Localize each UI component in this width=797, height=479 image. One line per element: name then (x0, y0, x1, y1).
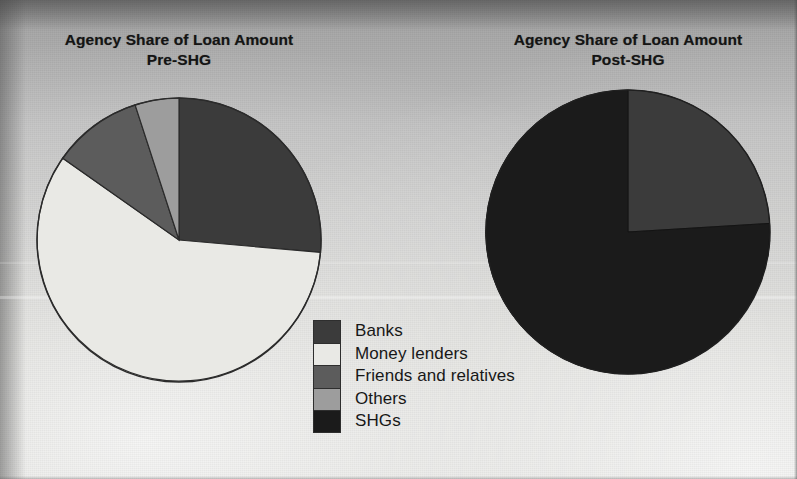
legend-item-others[interactable]: Others (313, 388, 515, 411)
top-shadow-band (0, 0, 797, 30)
left-shadow-band (0, 0, 26, 479)
chart-title-pre-shg: Agency Share of Loan Amount Pre-SHG (39, 30, 319, 70)
chart-title-post-shg-line1: Agency Share of Loan Amount (514, 31, 743, 48)
chart-title-post-shg: Agency Share of Loan Amount Post-SHG (487, 30, 769, 70)
legend-swatch-shgs (313, 410, 341, 433)
pie-chart-post-shg (482, 86, 774, 378)
figure-panel: Agency Share of Loan Amount Pre-SHG Agen… (0, 0, 797, 479)
legend-label-shgs: SHGs (355, 411, 401, 431)
legend-swatch-money-lenders (313, 343, 341, 366)
legend-swatch-banks (313, 320, 341, 343)
legend-item-banks[interactable]: Banks (313, 320, 515, 343)
pie-svg-post-shg (482, 86, 774, 378)
legend-swatch-friends-and-relatives (313, 365, 341, 388)
legend-item-money-lenders[interactable]: Money lenders (313, 343, 515, 366)
legend-label-others: Others (355, 389, 407, 409)
chart-title-pre-shg-line1: Agency Share of Loan Amount (65, 31, 294, 48)
chart-title-post-shg-line2: Post-SHG (487, 50, 769, 70)
legend-item-shgs[interactable]: SHGs (313, 410, 515, 433)
legend-item-friends-and-relatives[interactable]: Friends and relatives (313, 365, 515, 388)
legend-label-friends-and-relatives: Friends and relatives (355, 366, 515, 386)
legend-label-banks: Banks (355, 321, 403, 341)
legend: Banks Money lenders Friends and relative… (313, 320, 515, 433)
legend-label-money-lenders: Money lenders (355, 344, 468, 364)
legend-swatch-others (313, 388, 341, 411)
pie-slice-pre-banks (179, 98, 321, 252)
chart-title-pre-shg-line2: Pre-SHG (39, 50, 319, 70)
pie-chart-pre-shg (33, 94, 325, 386)
pie-svg-pre-shg (33, 94, 325, 386)
